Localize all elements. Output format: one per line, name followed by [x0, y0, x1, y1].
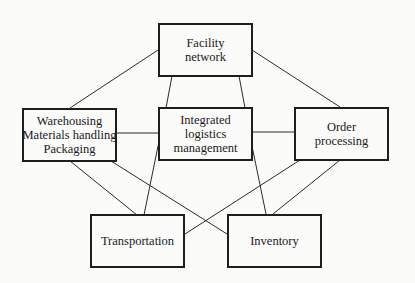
node-label-line: management [174, 141, 238, 155]
edge-integrated-inventory [252, 146, 266, 214]
diagram-canvas: Facility network Warehousing Materials h… [0, 0, 415, 283]
edge-facility-integrated-right [239, 76, 245, 108]
node-label-line: Order [327, 120, 356, 134]
node-order-processing: Order processing [294, 107, 389, 161]
node-facility-network: Facility network [158, 23, 253, 77]
node-label-line: Transportation [101, 234, 174, 248]
edge-warehousing-transportation [70, 161, 137, 215]
node-label-line: logistics [185, 127, 227, 141]
node-transportation: Transportation [90, 214, 185, 268]
node-label-line: Materials handling [22, 128, 116, 142]
node-label-line: Inventory [250, 234, 299, 248]
edge-integrated-transportation [144, 146, 158, 215]
node-warehousing: Warehousing Materials handling Packaging [22, 108, 117, 162]
edge-facility-order [252, 50, 340, 107]
node-label-line: Warehousing [37, 114, 103, 128]
node-inventory: Inventory [227, 214, 322, 268]
node-label-line: Facility [186, 36, 224, 50]
node-label-line: Packaging [43, 142, 95, 156]
edge-facility-warehousing [70, 50, 158, 108]
node-integrated-logistics-management: Integrated logistics management [158, 107, 253, 161]
node-label-line: network [185, 50, 226, 64]
node-label-line: processing [315, 134, 368, 148]
edge-order-inventory [273, 160, 340, 214]
node-label-line: Integrated [180, 113, 231, 127]
edge-facility-integrated-left [166, 76, 172, 108]
